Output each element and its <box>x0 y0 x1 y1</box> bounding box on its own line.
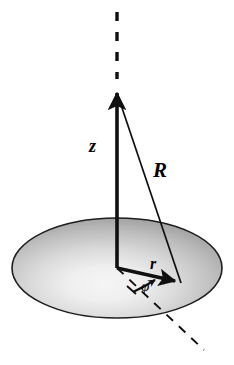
azimuth-angle-label: φ <box>141 279 149 294</box>
figure-canvas: z R r φ <box>0 0 234 365</box>
z-axis-label: z <box>89 137 96 155</box>
position-vector-label: R <box>153 160 167 181</box>
radial-vector-label: r <box>150 256 156 272</box>
coordinate-system-drawing <box>0 0 234 365</box>
